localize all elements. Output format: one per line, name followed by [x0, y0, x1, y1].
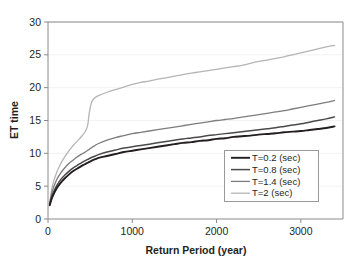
y-tick-label: 15	[29, 114, 41, 126]
legend-label: T=2 (sec)	[252, 187, 292, 198]
x-tick-label: 0	[45, 225, 51, 237]
y-tick-label: 20	[29, 81, 41, 93]
legend-label: T=0.2 (sec)	[252, 152, 300, 163]
legend-label: T=0.8 (sec)	[252, 164, 300, 175]
x-tick-label: 1000	[121, 225, 145, 237]
y-tick-label: 10	[29, 147, 41, 159]
legend-label: T=1.4 (sec)	[252, 176, 300, 187]
y-axis-title: ET time	[8, 101, 20, 139]
chart-figure: 051015202530 0100020003000 ET time Retur…	[0, 0, 358, 268]
x-tick-label: 3000	[289, 225, 313, 237]
y-tick-label: 30	[29, 16, 41, 28]
y-tick-label: 25	[29, 48, 41, 60]
x-tick-label: 2000	[205, 225, 229, 237]
line-chart: 051015202530 0100020003000 ET time Retur…	[0, 0, 358, 268]
y-tick-label: 0	[35, 213, 41, 225]
x-axis-title: Return Period (year)	[146, 244, 247, 256]
chart-legend[interactable]: T=0.2 (sec)T=0.8 (sec)T=1.4 (sec)T=2 (se…	[225, 151, 319, 202]
y-tick-label: 5	[35, 180, 41, 192]
